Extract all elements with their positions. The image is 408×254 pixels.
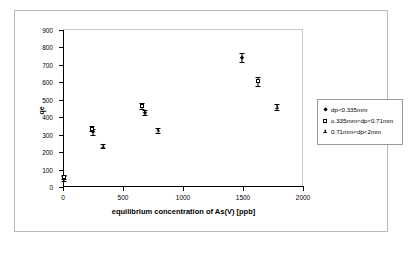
x-tick-label: 1500 [236,194,250,201]
legend-item-label: dp<0.335mm [331,106,367,113]
error-bar-cap [256,86,261,87]
x-tick-label: 2000 [296,194,310,201]
error-bar-cap [62,181,67,182]
x-tick: 1000 [183,187,184,191]
chart-legend: dp<0.335mmo.335mm<dp<0.71mm0.71mm<dp<2mm [317,99,403,145]
legend-item-label: o.335mm<dp<0.71mm [331,117,393,124]
y-tick-label: 800 [42,44,53,51]
y-tick-label: 0 [49,184,53,191]
error-bar-cap [91,135,96,136]
legend-marker-glyph [323,107,328,112]
y-tick-label: 500 [42,96,53,103]
y-tick: 400 [59,117,63,118]
y-tick: 600 [59,82,63,83]
y-tick: 500 [59,100,63,101]
error-bar-cap [143,115,148,116]
legend-marker-glyph [323,119,327,123]
error-bar-cap [89,131,94,132]
y-axis-label: qe [38,106,45,114]
error-bar-cap [240,62,245,63]
legend-item-label: 0.71mm<dp<2mm [331,128,381,135]
chart-figure: 0100200300400500600700800900 05001000150… [14,10,388,232]
point-marker [101,144,105,148]
x-tick: 2000 [303,187,304,191]
x-tick-label: 0 [61,194,65,201]
point-marker [62,175,66,179]
x-axis-label: equilibrium concentration of As(V) [ppb] [63,207,304,216]
x-tick-label: 1000 [176,194,190,201]
y-tick-label: 900 [42,27,53,34]
x-tick: 0 [63,187,64,191]
y-tick: 200 [59,152,63,153]
point-marker [156,128,160,132]
plot-area: 0100200300400500600700800900 05001000150… [63,29,303,186]
x-tick-label: 500 [118,194,129,201]
error-bar-cap [274,110,279,111]
legend-marker-icon [321,116,331,125]
point-marker [140,104,144,108]
y-tick: 800 [59,47,63,48]
legend-marker-icon [321,127,331,136]
point-marker [275,105,279,109]
y-tick-label: 200 [42,149,53,156]
legend-item: dp<0.335mm [321,104,399,115]
error-bar-cap [256,77,261,78]
legend-item: 0.71mm<dp<2mm [321,126,399,137]
y-tick: 700 [59,65,63,66]
x-tick: 1500 [243,187,244,191]
legend-marker-glyph [323,129,327,133]
legend-item: o.335mm<dp<0.71mm [321,115,399,126]
error-bar-cap [155,133,160,134]
point-marker [240,56,245,61]
y-tick-label: 700 [42,61,53,68]
y-tick-label: 400 [42,114,53,121]
y-tick-label: 100 [42,166,53,173]
y-tick: 900 [59,30,63,31]
y-tick-label: 300 [42,131,53,138]
error-bar-cap [139,109,144,110]
point-marker [90,127,94,131]
legend-marker-icon [321,105,331,114]
error-bar-cap [100,148,105,149]
y-tick: 300 [59,135,63,136]
x-tick: 500 [123,187,124,191]
y-tick: 100 [59,170,63,171]
point-marker [256,79,260,83]
error-bar-cap [240,53,245,54]
y-tick-label: 600 [42,79,53,86]
error-bar-cap [61,179,66,180]
